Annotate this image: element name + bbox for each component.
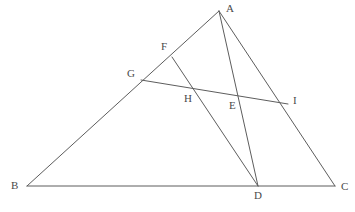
segment-fd [172, 57, 258, 186]
point-label-g: G [127, 68, 135, 79]
point-label-b: B [11, 180, 18, 191]
point-label-a: A [226, 3, 234, 14]
point-label-c: C [341, 181, 348, 192]
segment-side-ca [219, 11, 335, 186]
figure-canvas [0, 0, 355, 212]
point-label-d: D [254, 190, 262, 201]
point-label-h: H [184, 93, 192, 104]
segment-transversal-gi [141, 80, 288, 104]
geometry-figure: A B C D E F G H I [0, 0, 355, 212]
point-label-e: E [229, 100, 236, 111]
point-label-f: F [161, 41, 167, 52]
point-label-i: I [293, 95, 297, 106]
